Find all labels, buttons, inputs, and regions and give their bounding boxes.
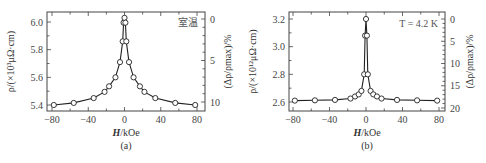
data-point-marker	[312, 98, 317, 103]
data-point-marker	[117, 60, 122, 65]
data-point-marker	[193, 102, 198, 107]
data-point-marker	[122, 15, 127, 20]
y2-axis-label: (Δρ/ρmax)/%	[464, 34, 476, 88]
data-point-marker	[126, 60, 131, 65]
y-axis-label: ρ/(×10¹²μΩ·cm)	[247, 29, 259, 93]
panel-label: (b)	[361, 140, 373, 152]
data-series-line	[54, 18, 195, 105]
data-point-marker	[415, 98, 420, 103]
y-tick-label: 2.8	[273, 69, 286, 80]
data-point-marker	[51, 102, 56, 107]
condition-annotation: T = 4.2 K	[399, 18, 439, 29]
data-point-marker	[102, 89, 107, 94]
data-point-marker	[123, 20, 128, 25]
condition-annotation: 室温	[178, 16, 198, 28]
y-tick-label: 5.4	[31, 100, 44, 111]
x-tick-label: −40	[322, 114, 338, 125]
y2-tick-label: 10	[210, 97, 220, 108]
x-tick-label: −80	[44, 114, 60, 125]
y2-tick-label: 0	[210, 14, 215, 25]
data-point-marker	[137, 84, 142, 89]
data-point-marker	[435, 98, 440, 103]
data-point-marker	[173, 100, 178, 105]
data-point-marker	[394, 97, 399, 102]
data-point-marker	[365, 72, 370, 77]
data-point-marker	[124, 39, 129, 44]
data-point-marker	[292, 98, 297, 103]
data-point-marker	[153, 95, 158, 100]
data-point-marker	[131, 75, 136, 80]
data-series-line	[295, 19, 437, 101]
data-point-marker	[106, 84, 111, 89]
data-point-marker	[364, 33, 369, 38]
y2-tick-label: 5	[210, 55, 215, 66]
y-tick-label: 5.6	[31, 72, 44, 83]
x-tick-label: 0	[364, 114, 369, 125]
y2-tick-label: 20	[450, 103, 460, 114]
x-tick-label: 40	[398, 114, 408, 125]
panel-b-chart: −80−40040802.62.83.03.205101520T = 4.2 K…	[247, 12, 476, 152]
y-tick-label: 2.6	[273, 97, 286, 108]
x-tick-label: 0	[122, 114, 127, 125]
data-point-marker	[363, 16, 368, 21]
y-tick-label: 6.0	[31, 17, 44, 28]
x-tick-label: 40	[156, 114, 166, 125]
data-point-marker	[113, 75, 118, 80]
y-axis-label: ρ/(×10³μΩ·cm)	[5, 31, 17, 92]
y2-axis-label: (Δρ/ρmax)/%	[222, 34, 234, 88]
x-tick-label: 80	[434, 114, 444, 125]
y-tick-label: 3.0	[273, 41, 286, 52]
data-point-marker	[332, 97, 337, 102]
data-point-marker	[379, 96, 384, 101]
figure: −80−40040805.45.65.86.00510室温H/kOe(a)ρ/(…	[0, 0, 486, 163]
panel-a-chart: −80−40040805.45.65.86.00510室温H/kOe(a)ρ/(…	[5, 12, 234, 152]
y2-tick-label: 0	[450, 14, 455, 25]
x-tick-label: −40	[80, 114, 96, 125]
x-axis-label: H/kOe	[111, 127, 140, 138]
panel-label: (a)	[120, 140, 131, 152]
data-point-marker	[91, 95, 96, 100]
data-point-marker	[71, 100, 76, 105]
data-point-marker	[142, 89, 147, 94]
y2-tick-label: 10	[450, 58, 460, 69]
data-point-marker	[359, 88, 364, 93]
x-tick-label: 80	[192, 114, 202, 125]
y-tick-label: 5.8	[31, 44, 44, 55]
x-tick-label: −80	[285, 114, 301, 125]
y2-tick-label: 5	[450, 36, 455, 47]
x-axis-label: H/kOe	[352, 127, 381, 138]
y-tick-label: 3.2	[273, 14, 286, 25]
y2-tick-label: 15	[450, 80, 460, 91]
